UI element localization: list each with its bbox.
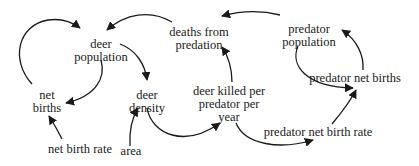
node-predator-net-births: predator net births bbox=[309, 72, 401, 85]
arrow-deer-population-to-net-births bbox=[66, 60, 102, 103]
node-label: predator net birth rate bbox=[264, 126, 373, 139]
node-deer-killed-per-predator-per-year: deer killed per predator per year bbox=[193, 85, 265, 124]
arrow-predator-net-birth-rate-to-predator-net-births bbox=[332, 90, 356, 124]
node-predator-population: predator population bbox=[282, 23, 335, 49]
arrow-net-births-to-deer-population bbox=[19, 19, 80, 84]
node-net-births: net births bbox=[33, 89, 61, 115]
arrow-predator-population-to-deaths-from-predation bbox=[222, 12, 280, 16]
arrow-net-birth-rate-to-net-births bbox=[49, 116, 62, 139]
node-predator-net-birth-rate: predator net birth rate bbox=[264, 126, 373, 139]
node-label: density bbox=[129, 102, 165, 115]
node-label: predation bbox=[169, 39, 228, 52]
node-deer-density: deer density bbox=[129, 89, 165, 115]
arrow-deaths-from-predation-to-deer-population bbox=[107, 15, 172, 30]
causal-loop-diagram: deer population deaths from predation pr… bbox=[0, 0, 419, 166]
node-label: predator net births bbox=[309, 72, 401, 85]
node-label: net birth rate bbox=[48, 143, 112, 156]
node-label: births bbox=[33, 102, 61, 115]
arrow-deer-killed-to-deaths-from-predation bbox=[222, 47, 232, 82]
node-area: area bbox=[121, 145, 142, 158]
arrow-predator-net-births-to-predator-population bbox=[342, 30, 363, 70]
node-label: population bbox=[74, 51, 127, 64]
node-net-birth-rate: net birth rate bbox=[48, 143, 112, 156]
node-label: area bbox=[121, 145, 142, 158]
node-label: year bbox=[193, 111, 265, 124]
node-label: population bbox=[282, 36, 335, 49]
node-deaths-from-predation: deaths from predation bbox=[169, 26, 228, 52]
node-deer-population: deer population bbox=[74, 38, 127, 64]
